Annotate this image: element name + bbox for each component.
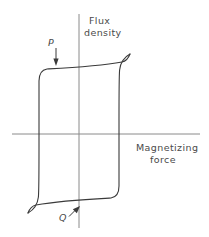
vertical-axis-label-line2: density: [84, 27, 122, 38]
horizontal-axis-label-line2: force: [150, 154, 176, 165]
annotation-label-q: Q: [59, 212, 67, 223]
hysteresis-diagram-svg: Flux density Magnetizing force P Q: [0, 0, 209, 237]
vertical-axis-label-line1: Flux: [89, 15, 110, 26]
horizontal-axis-label-line1: Magnetizing: [136, 142, 198, 153]
annotation-label-p: P: [48, 37, 54, 48]
pointer-p-arrowhead: [53, 59, 58, 67]
hysteresis-loop-figure: Flux density Magnetizing force P Q: [0, 0, 209, 237]
